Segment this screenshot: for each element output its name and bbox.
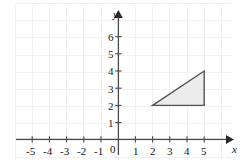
x-tick-label-4: 4 xyxy=(184,146,190,157)
y-tick-label-3: 3 xyxy=(108,84,114,95)
y-tick-label-1: 1 xyxy=(108,118,114,129)
x-tick-label--3: -3 xyxy=(60,146,69,157)
y-tick-label-5: 5 xyxy=(108,49,114,60)
plot-svg xyxy=(0,0,246,166)
x-axis-label: x xyxy=(232,144,237,155)
y-tick-label-2: 2 xyxy=(108,101,114,112)
x-tick-label-2: 2 xyxy=(150,146,156,157)
x-tick-label--2: -2 xyxy=(77,146,86,157)
y-tick-label-4: 4 xyxy=(108,66,114,77)
x-tick-label-1: 1 xyxy=(133,146,139,157)
y-axis-label: y xyxy=(113,9,118,20)
origin-label: 0 xyxy=(110,144,116,155)
y-tick-label-6: 6 xyxy=(108,32,114,43)
x-tick-label--5: -5 xyxy=(26,146,35,157)
x-tick-label--4: -4 xyxy=(43,146,52,157)
x-tick-label--1: -1 xyxy=(94,146,103,157)
x-tick-label-5: 5 xyxy=(201,146,207,157)
x-tick-label-3: 3 xyxy=(167,146,173,157)
coordinate-plane-figure: -5 -4 -3 -2 -1 1 2 3 4 5 0 1 2 3 4 5 6 y… xyxy=(0,0,246,166)
triangle-shape xyxy=(153,71,205,105)
